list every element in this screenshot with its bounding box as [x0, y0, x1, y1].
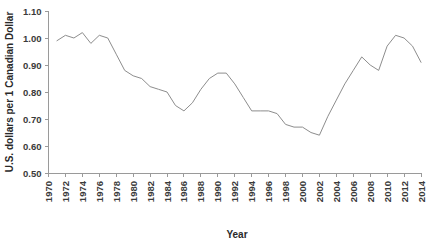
- y-tick-label: 0.70: [23, 114, 42, 125]
- x-tick-label: 1974: [77, 180, 88, 202]
- x-tick-label: 1984: [162, 180, 173, 202]
- x-tick-label: 1972: [60, 181, 71, 202]
- x-tick-label: 1976: [94, 181, 105, 202]
- x-tick-label: 1970: [43, 181, 54, 202]
- x-tick-label: 2006: [348, 181, 359, 202]
- x-tick-label: 1986: [178, 181, 189, 202]
- x-tick-label: 2012: [399, 181, 410, 202]
- x-tick-label: 1982: [145, 181, 156, 202]
- x-tick-label: 1980: [128, 181, 139, 202]
- data-line-series: [57, 33, 421, 136]
- x-tick-label: 2004: [331, 180, 342, 202]
- exchange-rate-chart: 0.500.600.700.800.901.001.10 19701972197…: [0, 0, 428, 243]
- x-tick-label: 2008: [365, 181, 376, 202]
- y-tick-label: 0.90: [23, 60, 42, 71]
- x-tick-labels: 1970197219741976197819801982198419861988…: [43, 180, 427, 202]
- y-tick-label: 0.80: [23, 87, 42, 98]
- x-tick-label: 1988: [195, 181, 206, 202]
- y-tick-label: 0.60: [23, 141, 42, 152]
- x-tick-label: 2014: [416, 180, 427, 202]
- x-tick-label: 2000: [297, 181, 308, 202]
- x-tick-label: 1994: [246, 180, 257, 202]
- y-tick-marks: [45, 11, 49, 173]
- y-tick-label: 0.50: [23, 168, 42, 179]
- chart-canvas: 0.500.600.700.800.901.001.10 19701972197…: [0, 0, 428, 243]
- y-tick-labels: 0.500.600.700.800.901.001.10: [23, 6, 42, 179]
- x-tick-label: 1998: [280, 181, 291, 202]
- x-tick-label: 1996: [263, 181, 274, 202]
- x-axis-title: Year: [226, 229, 247, 240]
- x-tick-label: 1992: [229, 181, 240, 202]
- x-tick-label: 1990: [212, 181, 223, 202]
- y-tick-label: 1.00: [23, 33, 42, 44]
- x-tick-label: 2002: [314, 181, 325, 202]
- x-tick-label: 2010: [382, 181, 393, 202]
- y-tick-label: 1.10: [23, 6, 42, 17]
- y-axis-title: U.S. dollars per 1 Canadian Dollar: [4, 12, 15, 173]
- x-tick-label: 1978: [111, 181, 122, 202]
